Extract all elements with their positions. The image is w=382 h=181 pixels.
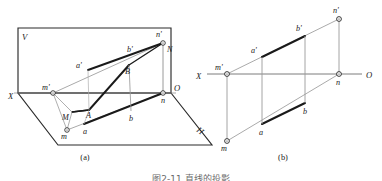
ortho-line-m-n: [227, 74, 339, 141]
pictorial-label-n-prime: n': [156, 30, 162, 39]
pictorial-o-axis-label: O: [174, 83, 180, 93]
ortho-segment-aprime-bprime: [262, 36, 305, 57]
pictorial-label-n: n: [161, 96, 165, 105]
h-plane-outline: [18, 93, 212, 145]
ortho-label-n: n: [336, 78, 340, 87]
marker-dot-n: [162, 92, 163, 93]
pictorial-label-m: m: [61, 132, 67, 141]
ortho-label-m: m: [221, 144, 227, 153]
pictorial-label-b: b: [129, 114, 133, 123]
construction-aprime-A: [88, 70, 89, 110]
v-plane-label: V: [22, 32, 29, 42]
segment-aprime-bprime: [88, 43, 163, 70]
construction-mprime-M: [53, 93, 72, 112]
figure-container: V H X O m' n' m n a' b' a b A B M N: [0, 0, 382, 181]
technical-drawing-svg: V H X O m' n' m n a' b' a b A B M N: [0, 0, 382, 181]
ortho-label-a: a: [259, 128, 263, 137]
ortho-marker-dot-m-prime: [226, 73, 227, 74]
pictorial-x-axis-label: X: [7, 91, 14, 101]
pictorial-label-b-prime: b': [127, 45, 133, 54]
orthographic-diagram: X O m' n' m n a' b' a b: [195, 6, 372, 153]
pictorial-label-a: a: [83, 127, 87, 136]
ortho-marker-dot-n: [338, 73, 339, 74]
marker-dot-n-prime: [162, 42, 163, 43]
ortho-x-axis-label: X: [195, 71, 202, 81]
ortho-point-markers: [225, 17, 342, 144]
pictorial-diagram: V H X O m' n' m n a' b' a b A B M N: [7, 28, 212, 145]
ortho-marker-dot-n-prime: [338, 18, 339, 19]
construction-mprime-m: [53, 93, 67, 130]
ortho-label-n-prime: n': [333, 6, 339, 15]
ortho-label-b-prime: b': [296, 24, 302, 33]
sub-caption-a: (a): [80, 153, 90, 162]
pictorial-label-m-prime: m': [42, 83, 50, 92]
pictorial-label-a-prime: a': [76, 61, 82, 70]
marker-dot-m-prime: [52, 92, 53, 93]
ortho-label-m-prime: m': [215, 63, 223, 72]
marker-dot-m: [66, 129, 67, 130]
v-plane-outline: [18, 28, 171, 93]
ortho-label-b: b: [303, 107, 307, 116]
pictorial-label-M: M: [61, 113, 70, 122]
pictorial-label-A: A: [85, 111, 92, 120]
ortho-segment-a-b: [262, 103, 305, 124]
figure-caption: 图2-11 直线的投影: [152, 173, 229, 181]
projection-line-mprime-nprime: [53, 43, 163, 93]
ortho-o-axis-label: O: [366, 70, 372, 80]
pictorial-label-N: N: [166, 45, 173, 54]
segment-a-b: [84, 93, 163, 124]
pictorial-label-B: B: [125, 67, 130, 76]
ortho-label-a-prime: a': [251, 46, 257, 55]
ortho-marker-dot-m: [226, 140, 227, 141]
sub-caption-b: (b): [278, 153, 288, 162]
space-line-A-B: [89, 65, 129, 110]
